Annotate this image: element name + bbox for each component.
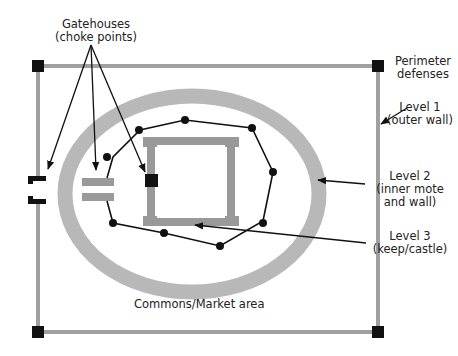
moat-gatehouse [82,178,114,201]
arrow-gatehouse-moat [91,45,96,170]
label-level2-sub2: and wall) [370,196,450,209]
keep-gatehouse [145,174,158,187]
corner-tower-top-right [372,60,384,72]
label-commons: Commons/Market area [134,298,265,311]
label-level3-sub: (keep/castle) [370,243,450,256]
label-perimeter-sub: defenses [388,68,458,81]
label-level1-sub: (outer wall) [380,114,458,127]
label-gatehouses: Gatehouses (choke points) [46,18,146,44]
label-level2: Level 2 (inner mote and wall) [370,170,450,209]
label-perimeter: Perimeter defenses [388,55,458,81]
corner-tower-top-left [32,60,44,72]
corner-tower-bottom-left [32,326,44,338]
label-level3: Level 3 (keep/castle) [370,230,450,256]
corner-tower-bottom-right [372,326,384,338]
arrow-level3 [195,225,366,243]
outer-gatehouse [28,176,46,204]
label-level1: Level 1 (outer wall) [380,101,458,127]
label-gatehouses-sub: (choke points) [46,31,146,44]
